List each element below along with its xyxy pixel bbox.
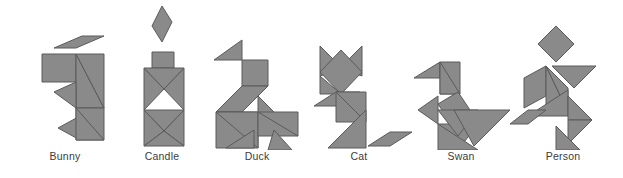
tangram-piece-head-square [42, 54, 76, 82]
tangram-piece-leg-upper-triangle [568, 96, 592, 120]
tangram-piece-leg-lower-triangle [568, 120, 592, 144]
tangram-piece-head-triangle [214, 40, 242, 60]
tangram-figure-cat: Cat [304, 0, 414, 178]
tangram-piece-chest-small-triangle [54, 82, 76, 108]
tangram-figure-bunny: Bunny [10, 0, 120, 178]
tangram-label-candle: Candle [145, 150, 179, 162]
tangram-figure-person: Person [508, 0, 618, 178]
tangram-piece-head-diamond [538, 26, 574, 62]
tangram-figure-candle: Candle [112, 0, 212, 178]
tangram-art-cat [304, 0, 414, 150]
tangram-piece-arm-left-parallelogram [524, 66, 546, 108]
tangram-piece-beak-triangle [414, 62, 440, 78]
tangram-label-bunny: Bunny [50, 150, 81, 162]
tangram-art-duck [202, 0, 312, 150]
tangram-art-bunny [10, 0, 120, 150]
tangram-label-swan: Swan [447, 150, 474, 162]
tangram-piece-foot-left-parallelogram [510, 110, 546, 124]
tangram-label-person: Person [546, 150, 580, 162]
tangram-label-duck: Duck [245, 150, 270, 162]
tangram-piece-head-square [242, 60, 268, 86]
tangram-art-person [508, 0, 618, 150]
tangram-figure-board: BunnyCandleDuckCatSwanPerson [0, 0, 623, 178]
tangram-piece-flame-diamond [152, 6, 172, 42]
tangram-figure-swan: Swan [406, 0, 516, 178]
tangram-art-candle [112, 0, 212, 150]
tangram-piece-ear-parallelogram [54, 36, 104, 48]
tangram-piece-breast-triangle [418, 96, 438, 124]
tangram-figure-duck: Duck [202, 0, 312, 178]
tangram-art-swan [406, 0, 516, 150]
tangram-piece-wick-rectangle [152, 52, 174, 68]
tangram-label-cat: Cat [351, 150, 368, 162]
